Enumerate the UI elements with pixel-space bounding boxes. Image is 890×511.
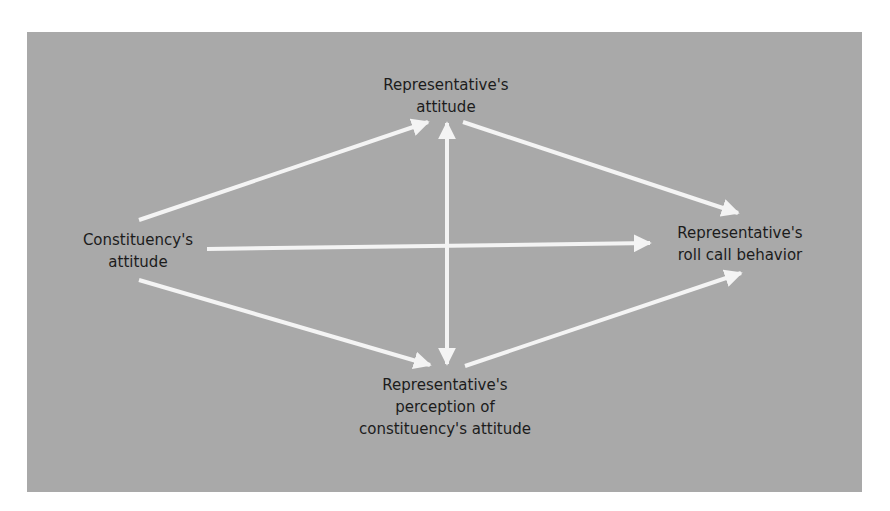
node-label-line: Constituency's: [58, 229, 218, 251]
node-label-line: roll call behavior: [640, 244, 840, 266]
node-perception-of-constituency: Representative's perception of constitue…: [330, 374, 560, 440]
arrow-constituency-to-roll-call: [207, 243, 650, 249]
node-representative-attitude: Representative's attitude: [346, 74, 546, 118]
node-label-line: constituency's attitude: [330, 418, 560, 440]
node-label-line: Representative's: [346, 74, 546, 96]
arrow-perception-to-roll-call: [465, 273, 741, 366]
node-label-line: attitude: [58, 251, 218, 273]
node-label-line: Representative's: [640, 222, 840, 244]
node-constituency-attitude: Constituency's attitude: [58, 229, 218, 273]
node-label-line: Representative's: [330, 374, 560, 396]
arrow-rep-attitude-to-roll-call: [463, 122, 738, 213]
arrow-constituency-to-perception: [139, 280, 430, 365]
node-label-line: attitude: [346, 96, 546, 118]
node-roll-call-behavior: Representative's roll call behavior: [640, 222, 840, 266]
arrow-constituency-to-rep-attitude: [139, 122, 428, 220]
node-label-line: perception of: [330, 396, 560, 418]
